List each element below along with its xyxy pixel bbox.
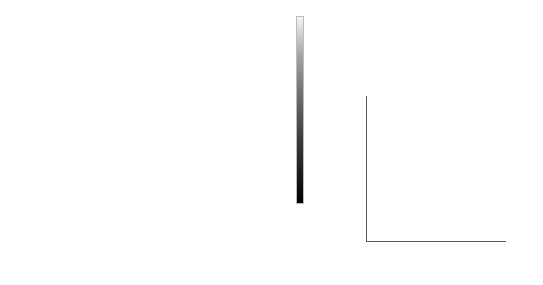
scatter-plot-area — [366, 96, 506, 242]
marginal-histogram-right — [510, 96, 534, 242]
heatmap-grid — [88, 18, 290, 200]
kde-curve-right — [510, 96, 534, 242]
marginal-histogram-top — [366, 14, 506, 76]
correlation-heatmap-panel — [0, 0, 330, 285]
figure-canvas — [0, 0, 543, 285]
kde-curve-top — [366, 14, 506, 76]
heatmap-x-axis-labels — [88, 200, 290, 280]
heatmap-y-axis-labels — [0, 18, 85, 200]
jointplot-panel — [330, 0, 543, 285]
heatmap-colorbar — [296, 16, 304, 204]
